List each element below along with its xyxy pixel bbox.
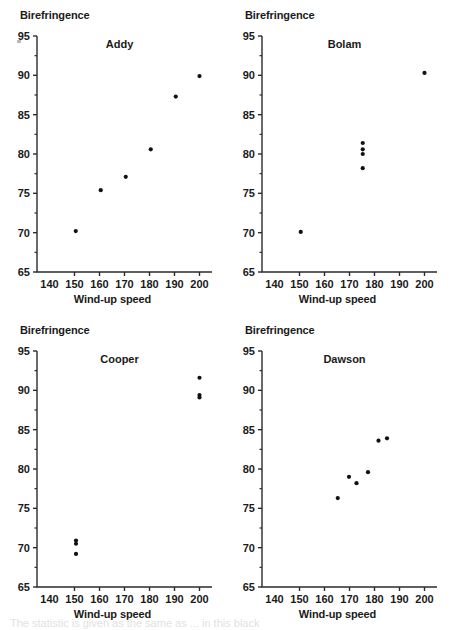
y-tick-label: 75 xyxy=(243,502,255,514)
x-tick-label: 180 xyxy=(365,593,383,605)
y-tick-label: 80 xyxy=(243,148,255,160)
clipped-caption-text: The statistic is given as the same as ..… xyxy=(10,617,450,630)
panel-bolam: Birefringence 65707580859095140150160170… xyxy=(225,0,450,315)
y-tick-label: 65 xyxy=(18,266,30,278)
x-tick-label: 200 xyxy=(415,593,433,605)
y-tick-label: 90 xyxy=(18,69,30,81)
y-tick-label: 85 xyxy=(243,109,255,121)
figure-grid: Birefringence 65707580859095140150160170… xyxy=(0,0,451,630)
x-tick-label: 160 xyxy=(315,593,333,605)
x-tick-label: 160 xyxy=(90,593,108,605)
x-tick-label: 190 xyxy=(165,593,183,605)
x-tick-label: 190 xyxy=(165,278,183,290)
x-tick-label: 150 xyxy=(65,278,83,290)
y-tick-label: 65 xyxy=(18,581,30,593)
x-tick-label: 200 xyxy=(190,278,208,290)
data-point xyxy=(74,538,78,542)
data-point xyxy=(197,376,201,380)
data-point xyxy=(361,166,365,170)
data-point xyxy=(197,393,201,397)
y-tick-label: 90 xyxy=(243,69,255,81)
x-tick-label: 170 xyxy=(115,278,133,290)
x-axis-title: Wind-up speed xyxy=(225,293,450,305)
data-point xyxy=(347,475,351,479)
x-tick-label: 190 xyxy=(390,278,408,290)
x-tick-label: 180 xyxy=(365,278,383,290)
y-tick-label: 80 xyxy=(243,463,255,475)
y-tick-label: 65 xyxy=(243,581,255,593)
x-tick-label: 150 xyxy=(290,278,308,290)
x-tick-label: 140 xyxy=(40,278,58,290)
x-tick-label: 170 xyxy=(340,278,358,290)
x-tick-label: 170 xyxy=(115,593,133,605)
panel-title-addy: Addy xyxy=(0,38,225,50)
y-tick-label: 85 xyxy=(243,424,255,436)
data-point xyxy=(354,481,358,485)
data-point xyxy=(376,439,380,443)
data-point xyxy=(149,147,153,151)
y-tick-label: 70 xyxy=(18,227,30,239)
data-point xyxy=(99,188,103,192)
data-point xyxy=(361,141,365,145)
data-point xyxy=(124,175,128,179)
y-tick-label: 85 xyxy=(18,424,30,436)
y-tick-label: 75 xyxy=(243,187,255,199)
y-tick-label: 75 xyxy=(18,502,30,514)
y-tick-label: 75 xyxy=(18,187,30,199)
x-tick-label: 170 xyxy=(340,593,358,605)
y-tick-label: 85 xyxy=(18,109,30,121)
y-tick-label: 70 xyxy=(243,227,255,239)
x-tick-label: 180 xyxy=(140,593,158,605)
panel-title-cooper: Cooper xyxy=(0,353,225,365)
data-point xyxy=(299,230,303,234)
y-tick-label: 70 xyxy=(18,542,30,554)
data-point xyxy=(385,436,389,440)
y-tick-label: 70 xyxy=(243,542,255,554)
x-tick-label: 200 xyxy=(415,278,433,290)
panel-addy: Birefringence 65707580859095140150160170… xyxy=(0,0,225,315)
data-point xyxy=(74,229,78,233)
data-point xyxy=(74,552,78,556)
x-tick-label: 140 xyxy=(40,593,58,605)
x-tick-label: 160 xyxy=(315,278,333,290)
y-tick-label: 90 xyxy=(243,384,255,396)
data-point xyxy=(336,496,340,500)
data-point xyxy=(366,470,370,474)
panel-title-dawson: Dawson xyxy=(225,353,450,365)
x-tick-label: 160 xyxy=(90,278,108,290)
x-tick-label: 150 xyxy=(290,593,308,605)
y-tick-label: 80 xyxy=(18,148,30,160)
x-axis-title: Wind-up speed xyxy=(0,293,225,305)
panel-dawson: Birefringence 65707580859095140150160170… xyxy=(225,315,450,630)
y-tick-label: 65 xyxy=(243,266,255,278)
x-tick-label: 180 xyxy=(140,278,158,290)
data-point xyxy=(361,152,365,156)
panel-cooper: Birefringence 65707580859095140150160170… xyxy=(0,315,225,630)
data-point xyxy=(174,94,178,98)
panel-title-bolam: Bolam xyxy=(225,38,450,50)
data-point xyxy=(361,147,365,151)
x-tick-label: 140 xyxy=(265,278,283,290)
y-tick-label: 80 xyxy=(18,463,30,475)
data-point xyxy=(422,71,426,75)
x-tick-label: 140 xyxy=(265,593,283,605)
x-tick-label: 190 xyxy=(390,593,408,605)
data-point xyxy=(197,74,201,78)
x-tick-label: 150 xyxy=(65,593,83,605)
y-tick-label: 90 xyxy=(18,384,30,396)
x-tick-label: 200 xyxy=(190,593,208,605)
